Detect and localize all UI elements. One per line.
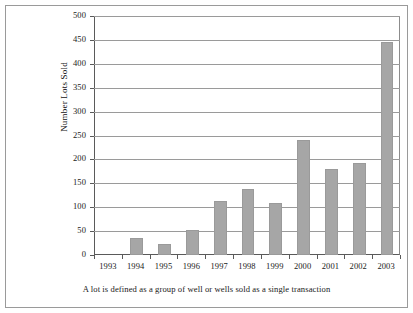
bar-2000 — [297, 140, 310, 255]
y-tick-mark — [90, 40, 94, 41]
bar-1999 — [269, 203, 282, 255]
bar-slot — [178, 16, 206, 255]
y-tick-label: 0 — [52, 250, 86, 259]
bar-slot — [290, 16, 318, 255]
bar-slot — [95, 16, 123, 255]
y-tick-label: 150 — [52, 178, 86, 187]
y-tick-mark — [90, 231, 94, 232]
bar-2003 — [381, 42, 394, 255]
bar-slot — [373, 16, 401, 255]
figure-container: Number Lots Sold 05010015020025030035040… — [0, 0, 413, 313]
x-tick-label-2003: 2003 — [369, 261, 403, 271]
y-tick-label: 200 — [52, 154, 86, 163]
y-tick-mark — [90, 183, 94, 184]
y-tick-mark — [90, 207, 94, 208]
x-tick-mark — [177, 255, 178, 259]
x-tick-mark — [289, 255, 290, 259]
y-tick-label: 450 — [52, 35, 86, 44]
bar-1998 — [242, 189, 255, 255]
x-tick-mark — [205, 255, 206, 259]
y-tick-label: 250 — [52, 131, 86, 140]
bar-slot — [234, 16, 262, 255]
y-tick-label: 400 — [52, 59, 86, 68]
bar-slot — [206, 16, 234, 255]
bar-1997 — [214, 201, 227, 255]
y-tick-mark — [90, 112, 94, 113]
y-tick-mark — [90, 88, 94, 89]
bar-slot — [345, 16, 373, 255]
bar-1996 — [186, 230, 199, 255]
bar-slot — [318, 16, 346, 255]
x-tick-mark — [344, 255, 345, 259]
bar-1995 — [158, 244, 171, 255]
x-tick-mark — [261, 255, 262, 259]
x-tick-mark — [233, 255, 234, 259]
bar-2002 — [353, 163, 366, 255]
x-tick-mark — [122, 255, 123, 259]
y-tick-label: 500 — [52, 11, 86, 20]
bar-slot — [151, 16, 179, 255]
bar-2001 — [325, 169, 338, 255]
y-tick-mark — [90, 136, 94, 137]
bar-1994 — [130, 238, 143, 255]
x-tick-mark — [400, 255, 401, 259]
y-tick-label: 100 — [52, 202, 86, 211]
y-tick-mark — [90, 16, 94, 17]
y-tick-mark — [90, 159, 94, 160]
bar-slot — [123, 16, 151, 255]
x-tick-mark — [372, 255, 373, 259]
bar-series — [95, 16, 400, 255]
figure-caption: A lot is defined as a group of well or w… — [14, 284, 399, 295]
x-tick-mark — [150, 255, 151, 259]
x-tick-mark — [317, 255, 318, 259]
y-tick-mark — [90, 64, 94, 65]
bar-slot — [262, 16, 290, 255]
y-axis-title: Number Lots Sold — [59, 27, 69, 167]
y-tick-label: 50 — [52, 226, 86, 235]
y-tick-label: 350 — [52, 83, 86, 92]
x-tick-mark-origin — [94, 255, 95, 259]
y-tick-label: 300 — [52, 107, 86, 116]
